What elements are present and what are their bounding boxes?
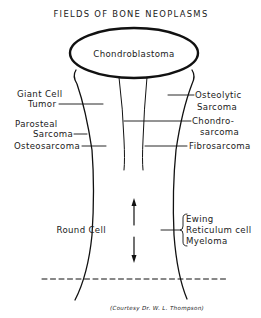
chondrosarcoma-label-line1: Chondro- <box>192 116 234 126</box>
ewing-label: Ewing <box>186 214 214 224</box>
giant-cell-label-line1: Giant Cell <box>17 89 62 99</box>
medullary-left-line <box>119 77 125 170</box>
metaphysis-left-wall <box>74 70 93 300</box>
parosteal-label-line1: Parosteal <box>15 119 58 129</box>
fibrosarcoma-label: Fibrosarcoma <box>189 141 251 151</box>
bone-neoplasm-diagram: FIELDS OF BONE NEOPLASMS Chondroblastoma… <box>0 0 261 318</box>
osteosarcoma-label: Osteosarcoma <box>14 141 80 151</box>
figure-title: FIELDS OF BONE NEOPLASMS <box>54 9 209 19</box>
arrow-up-icon <box>132 198 137 206</box>
arrow-down-icon <box>132 255 137 263</box>
metaphysis-right-wall <box>173 70 194 299</box>
round-cell-label: Round Cell <box>57 225 107 235</box>
chondrosarcoma-label-line2: sarcoma <box>200 127 239 137</box>
osteolytic-label-line1: Osteolytic <box>195 90 242 100</box>
giant-cell-label-line2: Tumor <box>27 99 56 109</box>
myeloma-label: Myeloma <box>186 236 228 246</box>
figure-credit: (Courtesy Dr. W. L. Thompson) <box>110 305 204 312</box>
chondroblastoma-label: Chondroblastoma <box>93 49 174 59</box>
osteolytic-label-line2: Sarcoma <box>197 102 237 112</box>
reticulum-cell-label: Reticulum cell <box>186 225 251 235</box>
parosteal-label-line2: Sarcoma <box>33 129 73 139</box>
medullary-right-line <box>143 77 148 170</box>
